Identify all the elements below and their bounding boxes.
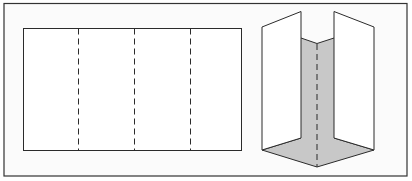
flat-sheet-outline: [24, 29, 242, 151]
right-outer-panel: [334, 12, 374, 151]
flat-sheet: [24, 29, 242, 151]
left-outer-panel: [262, 12, 301, 151]
fold-diagram: [0, 0, 412, 181]
